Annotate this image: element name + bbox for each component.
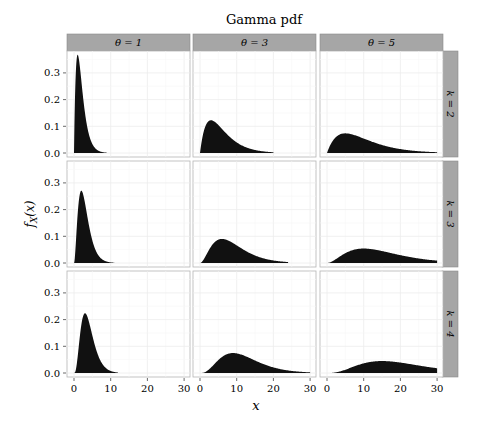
column-strip-label: θ = 3 [241, 37, 268, 48]
facet-panel [320, 271, 443, 377]
row-strip-label: k = 4 [445, 310, 456, 337]
x-tick-label: 10 [357, 383, 370, 394]
facet-panel [193, 161, 316, 267]
row-strip-label: k = 3 [445, 200, 456, 227]
y-tick-label: 0.1 [44, 341, 60, 352]
x-tick-label: 10 [230, 383, 243, 394]
facet-panel [193, 271, 316, 377]
y-tick-label: 0.2 [44, 94, 60, 105]
x-tick-label: 30 [431, 383, 444, 394]
chart-title: Gamma pdf [226, 12, 303, 27]
x-tick-label: 20 [141, 383, 154, 394]
facet-panels: θ = 1θ = 3θ = 5k = 2k = 3k = 40.00.10.20… [44, 34, 458, 394]
row-strip-label: k = 2 [445, 90, 456, 117]
x-axis-label: x [252, 398, 260, 413]
x-tick-label: 0 [197, 383, 203, 394]
y-tick-label: 0.1 [44, 121, 60, 132]
facet-panel [67, 161, 190, 267]
y-tick-label: 0.0 [44, 148, 60, 159]
gamma-pdf-faceted-chart: Gamma pdf θ = 1θ = 3θ = 5k = 2k = 3k = 4… [0, 0, 481, 428]
column-strip-label: θ = 5 [368, 37, 395, 48]
y-tick-label: 0.3 [44, 287, 60, 298]
x-tick-label: 0 [71, 383, 77, 394]
x-tick-label: 30 [178, 383, 191, 394]
facet-panel [320, 161, 443, 267]
x-axis-label-text: x [252, 398, 260, 413]
x-tick-label: 30 [304, 383, 317, 394]
y-tick-label: 0.2 [44, 314, 60, 325]
y-tick-label: 0.2 [44, 204, 60, 215]
column-strip-label: θ = 1 [115, 37, 142, 48]
facet-panel [67, 271, 190, 377]
y-tick-label: 0.1 [44, 231, 60, 242]
x-tick-label: 0 [324, 383, 330, 394]
x-tick-label: 20 [394, 383, 407, 394]
y-axis-label: fX(x) [23, 200, 39, 228]
y-axis-label-text: fX(x) [23, 200, 39, 228]
facet-panel [320, 51, 443, 157]
facet-panel [67, 51, 190, 157]
x-tick-label: 20 [267, 383, 280, 394]
x-tick-label: 10 [104, 383, 117, 394]
y-tick-label: 0.3 [44, 177, 60, 188]
y-tick-label: 0.0 [44, 368, 60, 379]
facet-panel [193, 51, 316, 157]
y-tick-label: 0.0 [44, 258, 60, 269]
y-tick-label: 0.3 [44, 67, 60, 78]
